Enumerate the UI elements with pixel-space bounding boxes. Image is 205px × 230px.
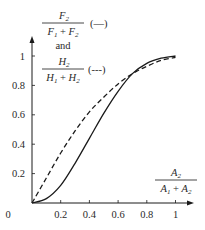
svg-text:A2: A2 <box>170 167 181 180</box>
x-tick-label: 1 <box>173 209 178 220</box>
line-chart: 00.20.40.60.81 0.20.40.60.81 F2 F1 + F2 … <box>0 0 205 230</box>
svg-text:F1 + F2: F1 + F2 <box>46 26 79 39</box>
legend-dashed: (---) <box>88 64 106 76</box>
x-tick-label: 0.6 <box>112 209 125 220</box>
legend-solid: (—) <box>90 18 108 30</box>
svg-text:H1 + H2: H1 + H2 <box>45 72 80 85</box>
y-tick-label: 0.8 <box>12 80 25 91</box>
y-tick-label: 0.2 <box>12 168 25 179</box>
y-tick-label: 1 <box>20 51 25 62</box>
y-axis-label-h: H2 H1 + H2 (---) <box>42 56 106 85</box>
x-axis-arrow-icon <box>187 201 194 206</box>
x-tick-label: 0.4 <box>83 209 97 220</box>
x-tick-label: 0.8 <box>140 209 153 220</box>
svg-text:F2: F2 <box>58 10 69 23</box>
x-axis-label: A2 A1 + A2 <box>155 167 197 196</box>
svg-text:H2: H2 <box>57 56 70 69</box>
y-axis-label-and: and <box>55 40 71 51</box>
y-axis-arrow-icon <box>30 36 35 43</box>
x-tick-label: 0 <box>5 209 10 220</box>
x-tick-label: 0.2 <box>54 209 67 220</box>
y-tick-label: 0.4 <box>12 139 26 150</box>
svg-text:A1 + A2: A1 + A2 <box>159 183 192 196</box>
y-tick-label: 0.6 <box>12 109 25 120</box>
y-axis-label-f: F2 F1 + F2 (—) <box>42 10 108 39</box>
